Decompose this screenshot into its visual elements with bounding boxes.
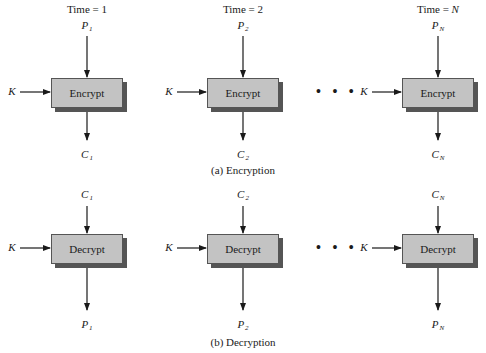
connector-lines bbox=[0, 0, 486, 353]
ciphertext-subscript: 2 bbox=[245, 154, 249, 162]
time-label-n: Time = N bbox=[405, 3, 471, 15]
decryption-caption: (b) Decryption bbox=[183, 336, 303, 348]
decrypt-box-2: Decrypt bbox=[207, 234, 279, 264]
plaintext-label-1: P1 bbox=[72, 19, 102, 31]
decrypt-box-n: Decrypt bbox=[402, 234, 474, 264]
encrypt-box-2: Encrypt bbox=[207, 78, 279, 108]
plaintext-subscript: N bbox=[440, 25, 445, 33]
ciphertext-subscript: 2 bbox=[245, 194, 249, 202]
plaintext-subscript: 2 bbox=[245, 324, 249, 332]
plaintext-letter: P bbox=[432, 318, 439, 330]
plaintext-letter: P bbox=[81, 318, 88, 330]
plaintext-label-2: P2 bbox=[228, 19, 258, 31]
ciphertext-letter: C bbox=[431, 148, 438, 160]
ciphertext-in-label-1: C1 bbox=[72, 188, 102, 200]
plaintext-letter: P bbox=[81, 19, 88, 31]
encrypt-box-1: Encrypt bbox=[51, 78, 123, 108]
ciphertext-label-n: CN bbox=[423, 148, 453, 160]
ciphertext-letter: C bbox=[237, 188, 244, 200]
plaintext-out-label-n: PN bbox=[423, 318, 453, 330]
ciphertext-label-2: C2 bbox=[228, 148, 258, 160]
plaintext-label-n: PN bbox=[423, 19, 453, 31]
plaintext-out-label-1: P1 bbox=[72, 318, 102, 330]
ciphertext-letter: C bbox=[431, 188, 438, 200]
key-label-d1: K bbox=[6, 241, 18, 253]
encryption-caption: (a) Encryption bbox=[183, 164, 303, 176]
plaintext-subscript: 1 bbox=[89, 324, 93, 332]
key-label-n: K bbox=[358, 85, 370, 97]
key-label-dn: K bbox=[358, 241, 370, 253]
plaintext-subscript: N bbox=[440, 324, 445, 332]
ciphertext-letter: C bbox=[81, 188, 88, 200]
ciphertext-subscript: 1 bbox=[89, 194, 93, 202]
time-n-var: N bbox=[452, 3, 459, 15]
plaintext-letter: P bbox=[432, 19, 439, 31]
ciphertext-letter: C bbox=[237, 148, 244, 160]
plaintext-out-label-2: P2 bbox=[228, 318, 258, 330]
ciphertext-in-label-2: C2 bbox=[228, 188, 258, 200]
plaintext-subscript: 1 bbox=[89, 25, 93, 33]
ciphertext-letter: C bbox=[81, 148, 88, 160]
key-label-2: K bbox=[163, 85, 175, 97]
plaintext-subscript: 2 bbox=[245, 25, 249, 33]
ciphertext-label-1: C1 bbox=[72, 148, 102, 160]
plaintext-letter: P bbox=[237, 318, 244, 330]
encrypt-box-n: Encrypt bbox=[402, 78, 474, 108]
ellipsis-decryption: • • • bbox=[316, 240, 358, 256]
key-label-d2: K bbox=[163, 241, 175, 253]
ciphertext-subscript: 1 bbox=[89, 154, 93, 162]
plaintext-letter: P bbox=[237, 19, 244, 31]
time-label-1: Time = 1 bbox=[57, 3, 117, 15]
time-label-2: Time = 2 bbox=[213, 3, 273, 15]
ciphertext-in-label-n: CN bbox=[423, 188, 453, 200]
decrypt-box-1: Decrypt bbox=[51, 234, 123, 264]
key-label-1: K bbox=[6, 85, 18, 97]
ciphertext-subscript: N bbox=[440, 194, 445, 202]
ciphertext-subscript: N bbox=[440, 154, 445, 162]
ellipsis-encryption: • • • bbox=[316, 84, 358, 100]
